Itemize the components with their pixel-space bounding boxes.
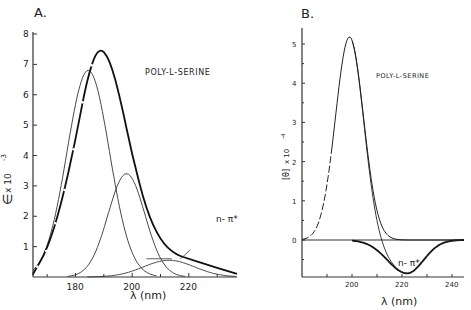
y-tick-label: 1 xyxy=(23,242,29,252)
theta-symbol: [θ] xyxy=(282,169,291,180)
y-tick-label: 5 xyxy=(292,41,296,49)
y-tick-label: 2 xyxy=(292,159,296,167)
x-tick-label: 240 xyxy=(445,281,458,289)
y-tick-label: 4 xyxy=(23,151,29,161)
ylabel-exponent: -4 xyxy=(280,133,286,139)
y-tick-label: 7 xyxy=(23,59,29,69)
y-tick-label: 0 xyxy=(292,237,296,245)
n-pi-star-band xyxy=(352,240,464,273)
component-band-2 xyxy=(68,174,186,277)
panel-b-annotation-n-pi-star: n- π* xyxy=(398,258,420,268)
component-band-3 xyxy=(87,260,236,277)
ylabel-multiplier: x 10 xyxy=(283,149,291,164)
positive-band xyxy=(332,37,464,240)
dash-gap xyxy=(90,64,93,67)
panel-b-label: B. xyxy=(301,6,314,21)
y-tick-label: 4 xyxy=(292,80,297,88)
epsilon-symbol: ∈ xyxy=(0,194,15,205)
x-tick-label: 200 xyxy=(345,281,358,289)
total-absorption-curve xyxy=(33,51,237,274)
y-tick-label: 5 xyxy=(23,120,29,130)
dash-gap xyxy=(54,222,57,225)
y-tick-label: 1 xyxy=(292,198,296,206)
x-tick-label: 220 xyxy=(395,281,408,289)
panel-a-annotation-n-pi-star: n- π* xyxy=(216,214,238,224)
ylabel-exponent: -3 xyxy=(0,154,8,161)
dash-gap xyxy=(36,265,39,268)
panel-b-xlabel: λ (nm) xyxy=(381,295,417,308)
panel-a-ylabel: ∈ x 10 -3 xyxy=(0,154,15,205)
positive-band-dashed xyxy=(302,147,332,239)
dash-gap xyxy=(81,101,84,104)
panel-b-ylabel: [θ] x 10 -4 xyxy=(280,133,291,180)
ylabel-multiplier: x 10 xyxy=(3,173,13,193)
y-tick-label: 6 xyxy=(23,90,29,100)
component-band-1 xyxy=(33,71,156,276)
y-tick-label: 2 xyxy=(23,211,29,221)
dash-gap xyxy=(45,250,48,253)
panel-a-label: A. xyxy=(34,5,47,20)
panel-a-xlabel: λ (nm) xyxy=(130,289,166,302)
figure: A. 12345678180200220 POLY-L-SERINE λ (nm… xyxy=(0,0,471,310)
panel-b: B. 012345200220240 POLY-L-SERINE λ (nm) … xyxy=(280,6,464,308)
x-tick-label: 180 xyxy=(67,282,84,292)
panel-a: A. 12345678180200220 POLY-L-SERINE λ (nm… xyxy=(0,5,238,302)
x-tick-label: 220 xyxy=(180,282,197,292)
y-tick-label: 3 xyxy=(292,119,296,127)
dash-gap xyxy=(63,189,66,192)
panel-a-title: POLY-L-SERINE xyxy=(145,68,210,77)
y-tick-label: 8 xyxy=(23,29,29,39)
dash-gap xyxy=(72,148,75,151)
y-tick-label: 3 xyxy=(23,181,29,191)
panel-b-title: POLY-L-SERINE xyxy=(376,72,429,80)
